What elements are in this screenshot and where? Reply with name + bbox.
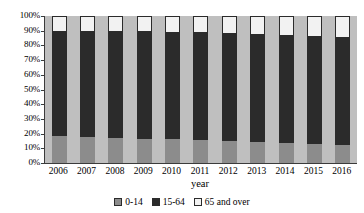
y-axis-tick-label: 90% xyxy=(24,26,40,35)
stacked-bar-chart: 100%90%80%70%60%50%40%30%20%10%0% 200620… xyxy=(0,0,364,213)
bar-segment-15-64 xyxy=(335,37,350,145)
y-axis-tick-mark xyxy=(41,45,45,46)
bar-segment-65-and-over xyxy=(108,16,123,31)
y-axis-tick-label: 20% xyxy=(24,129,40,138)
bar-segment-0-14 xyxy=(193,140,208,163)
bar-2014 xyxy=(279,16,294,163)
y-axis-tick-label: 80% xyxy=(24,40,40,49)
bar-segment-65-and-over xyxy=(307,16,322,36)
bar-2016 xyxy=(335,16,350,163)
y-axis-tick-mark xyxy=(41,163,45,164)
bar-segment-15-64 xyxy=(279,35,294,143)
legend-label: 15-64 xyxy=(163,196,185,208)
bar-2013 xyxy=(250,16,265,163)
bar-segment-65-and-over xyxy=(52,16,67,31)
bar-segment-0-14 xyxy=(307,144,322,163)
bar-segment-65-and-over xyxy=(335,16,350,37)
bar-segment-0-14 xyxy=(137,139,152,163)
y-axis-tick-mark xyxy=(41,134,45,135)
y-axis-tick-label: 50% xyxy=(24,85,40,94)
bar-segment-0-14 xyxy=(52,136,67,163)
bar-group xyxy=(45,16,357,163)
bar-segment-65-and-over xyxy=(250,16,265,34)
legend-label: 0-14 xyxy=(125,196,142,208)
y-axis-tick-mark xyxy=(41,104,45,105)
bar-segment-0-14 xyxy=(80,137,95,163)
bar-segment-65-and-over xyxy=(193,16,208,32)
bar-segment-0-14 xyxy=(335,145,350,163)
bar-2009 xyxy=(137,16,152,163)
bar-segment-65-and-over xyxy=(165,16,180,32)
y-axis-tick-mark xyxy=(41,90,45,91)
bar-2006 xyxy=(52,16,67,163)
y-axis-tick-label: 60% xyxy=(24,70,40,79)
x-axis-title: year xyxy=(44,177,356,191)
bar-segment-0-14 xyxy=(108,138,123,163)
bar-segment-0-14 xyxy=(222,141,237,163)
y-axis-tick-mark xyxy=(41,75,45,76)
bar-segment-15-64 xyxy=(80,31,95,137)
y-axis-tick-mark xyxy=(41,60,45,61)
bar-2007 xyxy=(80,16,95,163)
bar-segment-15-64 xyxy=(250,34,265,141)
legend-label: 65 and over xyxy=(205,196,250,208)
y-axis-tick-mark xyxy=(41,16,45,17)
bar-segment-15-64 xyxy=(165,32,180,139)
y-axis-tick-mark xyxy=(41,119,45,120)
chart-legend: 0-1415-6465 and over xyxy=(0,196,364,208)
bar-segment-15-64 xyxy=(307,36,322,144)
y-axis-tick-label: 30% xyxy=(24,114,40,123)
legend-item: 15-64 xyxy=(152,196,185,208)
bar-segment-15-64 xyxy=(108,31,123,138)
bar-segment-15-64 xyxy=(52,31,67,136)
legend-swatch-icon xyxy=(114,198,122,206)
bar-segment-65-and-over xyxy=(279,16,294,35)
y-axis-tick-mark xyxy=(41,148,45,149)
y-axis-tick-label: 0% xyxy=(28,158,40,167)
y-axis-tick-label: 100% xyxy=(20,11,40,20)
y-axis-tick-mark xyxy=(41,31,45,32)
bar-segment-0-14 xyxy=(250,142,265,163)
bar-2011 xyxy=(193,16,208,163)
legend-item: 65 and over xyxy=(194,196,250,208)
bar-segment-0-14 xyxy=(279,143,294,163)
y-axis-tick-label: 70% xyxy=(24,55,40,64)
bar-2012 xyxy=(222,16,237,163)
plot-area xyxy=(44,16,357,164)
bar-segment-65-and-over xyxy=(222,16,237,33)
bar-segment-65-and-over xyxy=(80,16,95,31)
y-axis-labels: 100%90%80%70%60%50%40%30%20%10%0% xyxy=(2,0,40,213)
bar-segment-15-64 xyxy=(222,33,237,141)
bar-2008 xyxy=(108,16,123,163)
legend-swatch-icon xyxy=(194,198,202,206)
bar-2010 xyxy=(165,16,180,163)
y-axis-tick-label: 40% xyxy=(24,99,40,108)
legend-swatch-icon xyxy=(152,198,160,206)
bar-segment-15-64 xyxy=(193,32,208,140)
legend-item: 0-14 xyxy=(114,196,142,208)
bar-2015 xyxy=(307,16,322,163)
bar-segment-15-64 xyxy=(137,31,152,138)
bar-segment-0-14 xyxy=(165,139,180,163)
y-axis-tick-label: 10% xyxy=(24,143,40,152)
bar-segment-65-and-over xyxy=(137,16,152,31)
